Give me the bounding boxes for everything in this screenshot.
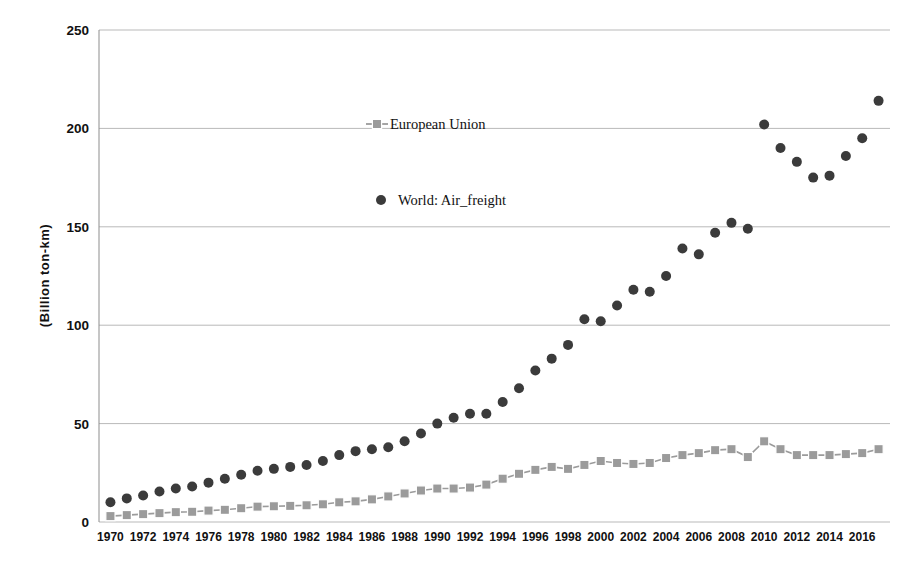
data-point bbox=[563, 340, 573, 350]
data-point bbox=[188, 507, 197, 516]
y-axis-tick-label: 0 bbox=[47, 515, 89, 530]
legend-item-label: World: Air_freight bbox=[398, 192, 506, 209]
x-axis-tick-label: 1986 bbox=[359, 530, 386, 544]
x-axis-tick-label: 1990 bbox=[424, 530, 451, 544]
data-point bbox=[694, 449, 703, 458]
data-point bbox=[694, 249, 704, 259]
data-point bbox=[776, 445, 785, 454]
data-point bbox=[286, 501, 295, 510]
chart-figure: (Billion ton-km) 05010015020025019701972… bbox=[0, 0, 906, 577]
data-point bbox=[711, 446, 720, 455]
data-point bbox=[661, 271, 671, 281]
data-point bbox=[220, 505, 229, 514]
data-point bbox=[727, 445, 736, 454]
x-axis-tick-label: 2004 bbox=[653, 530, 680, 544]
data-point bbox=[482, 480, 491, 489]
x-axis-tick-label: 1994 bbox=[489, 530, 516, 544]
data-point bbox=[776, 143, 786, 153]
data-point bbox=[841, 450, 850, 459]
y-axis-tick-label: 250 bbox=[47, 23, 89, 38]
data-point bbox=[580, 460, 589, 469]
legend-circle-marker bbox=[376, 195, 386, 205]
data-point bbox=[530, 365, 540, 375]
x-axis-tick-label: 1978 bbox=[228, 530, 255, 544]
data-point bbox=[253, 466, 263, 476]
data-point bbox=[432, 419, 442, 429]
y-axis-tick-label: 200 bbox=[47, 121, 89, 136]
data-point bbox=[318, 456, 328, 466]
x-axis-tick-label: 2010 bbox=[751, 530, 778, 544]
data-point bbox=[792, 157, 802, 167]
x-axis-tick-label: 1996 bbox=[522, 530, 549, 544]
data-point bbox=[498, 474, 507, 483]
data-point bbox=[743, 452, 752, 461]
data-point bbox=[285, 462, 295, 472]
data-point bbox=[808, 173, 818, 183]
data-point bbox=[629, 459, 638, 468]
x-axis-tick-label: 1984 bbox=[326, 530, 353, 544]
data-point bbox=[253, 502, 262, 511]
data-point bbox=[628, 285, 638, 295]
data-point bbox=[171, 484, 181, 494]
data-point bbox=[433, 484, 442, 493]
data-point bbox=[874, 96, 884, 106]
data-point bbox=[449, 413, 459, 423]
data-point bbox=[302, 501, 311, 510]
data-point bbox=[677, 243, 687, 253]
data-point bbox=[825, 171, 835, 181]
x-axis-tick-label: 2014 bbox=[816, 530, 843, 544]
data-point bbox=[204, 478, 214, 488]
data-point bbox=[792, 450, 801, 459]
data-point bbox=[400, 436, 410, 446]
data-point bbox=[645, 458, 654, 467]
x-axis-tick-label: 1988 bbox=[391, 530, 418, 544]
data-point bbox=[678, 450, 687, 459]
data-point bbox=[514, 469, 523, 478]
legend-item-label: European Union bbox=[390, 116, 485, 133]
data-point bbox=[857, 133, 867, 143]
data-point bbox=[351, 497, 360, 506]
x-axis-tick-label: 1970 bbox=[97, 530, 124, 544]
data-point bbox=[383, 442, 393, 452]
data-point bbox=[743, 224, 753, 234]
data-point bbox=[351, 446, 361, 456]
data-point bbox=[596, 456, 605, 465]
data-point bbox=[105, 497, 115, 507]
data-point bbox=[106, 512, 115, 521]
data-point bbox=[367, 444, 377, 454]
plot-canvas bbox=[0, 0, 906, 577]
x-axis-tick-label: 1992 bbox=[457, 530, 484, 544]
data-point bbox=[237, 504, 246, 513]
data-point bbox=[825, 450, 834, 459]
data-point bbox=[155, 509, 164, 518]
data-point bbox=[302, 460, 312, 470]
data-point bbox=[612, 301, 622, 311]
data-point bbox=[122, 511, 131, 520]
x-axis-tick-label: 1976 bbox=[195, 530, 222, 544]
data-point bbox=[334, 450, 344, 460]
y-axis-tick-label: 50 bbox=[47, 416, 89, 431]
x-axis-tick-label: 2000 bbox=[587, 530, 614, 544]
x-axis-tick-label: 1982 bbox=[293, 530, 320, 544]
data-point bbox=[645, 287, 655, 297]
x-axis-tick-label: 2008 bbox=[718, 530, 745, 544]
data-point bbox=[547, 462, 556, 471]
data-point bbox=[416, 428, 426, 438]
data-point bbox=[449, 484, 458, 493]
data-point bbox=[841, 151, 851, 161]
data-point bbox=[662, 453, 671, 462]
data-point bbox=[579, 314, 589, 324]
data-point bbox=[726, 218, 736, 228]
data-point bbox=[514, 383, 524, 393]
data-point bbox=[858, 449, 867, 458]
data-point bbox=[139, 510, 148, 519]
x-axis-tick-label: 2006 bbox=[685, 530, 712, 544]
data-point bbox=[596, 316, 606, 326]
data-point bbox=[122, 493, 132, 503]
data-point bbox=[384, 492, 393, 501]
data-point bbox=[171, 508, 180, 517]
data-point bbox=[481, 409, 491, 419]
data-point bbox=[416, 486, 425, 495]
x-axis-tick-label: 1974 bbox=[162, 530, 189, 544]
legend-square-marker bbox=[372, 119, 381, 128]
